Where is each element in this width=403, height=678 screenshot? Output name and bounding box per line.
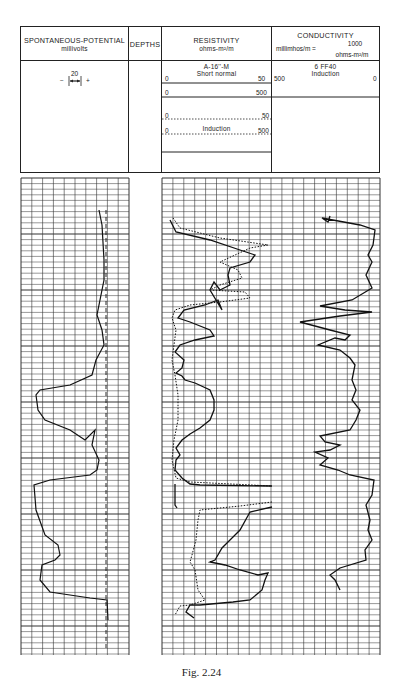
figure-caption: Fig. 2.24 [0,666,403,678]
